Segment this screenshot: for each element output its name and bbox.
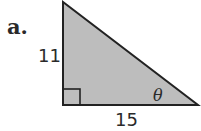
right-triangle	[63, 2, 198, 105]
side-horizontal-label: 15	[115, 109, 138, 130]
triangle-diagram: a. 11 15 θ	[0, 0, 201, 131]
problem-label: a.	[7, 14, 28, 39]
angle-theta-label: θ	[153, 86, 163, 105]
side-vertical-label: 11	[38, 45, 61, 66]
